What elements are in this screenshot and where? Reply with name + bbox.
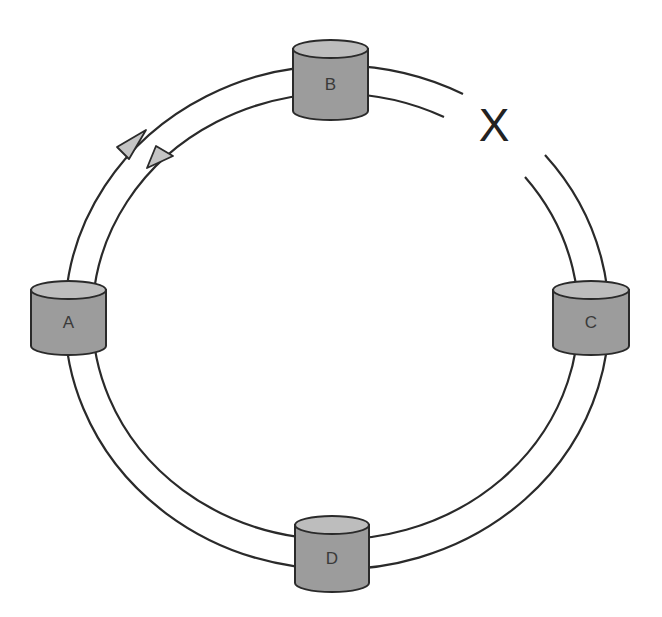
node-a: A	[31, 281, 106, 355]
node-c: C	[553, 281, 629, 355]
cylinder-top-icon	[295, 516, 369, 534]
node-d: D	[295, 516, 369, 592]
cylinder-top-icon	[553, 281, 629, 299]
node-label: A	[63, 313, 75, 332]
direction-arrows	[117, 130, 173, 168]
inner-ring-arrow-icon	[147, 146, 173, 168]
outer-ring-arrow-icon	[117, 130, 146, 159]
ring-network-diagram: A B C D X	[0, 0, 662, 617]
cylinder-top-icon	[31, 281, 106, 299]
rings	[65, 65, 609, 569]
node-label: B	[325, 75, 336, 94]
node-b: B	[293, 40, 368, 120]
nodes: A B C D	[31, 40, 629, 592]
node-label: D	[326, 549, 338, 568]
cylinder-top-icon	[293, 40, 368, 58]
ring-break-marker: X	[479, 99, 510, 151]
outer-ring	[65, 65, 609, 569]
node-label: C	[585, 313, 597, 332]
